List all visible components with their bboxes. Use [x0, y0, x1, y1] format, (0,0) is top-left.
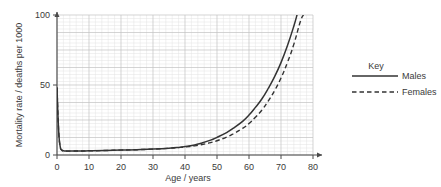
y-axis-title: Mortality rate / deaths per 1000: [14, 23, 24, 148]
legend-label-females: Females: [402, 87, 437, 97]
x-tick-label: 80: [308, 162, 318, 172]
y-tick-label: 50: [40, 80, 50, 90]
y-tick-label: 100: [35, 10, 50, 20]
chart-canvas: 01020304050607080 050100 Age / years Mor…: [0, 0, 441, 187]
chart-background: [0, 0, 441, 187]
x-tick-label: 70: [276, 162, 286, 172]
x-tick-label: 50: [212, 162, 222, 172]
x-tick-label: 20: [116, 162, 126, 172]
legend-title: Key: [368, 61, 384, 71]
x-tick-label: 60: [244, 162, 254, 172]
x-tick-label: 30: [148, 162, 158, 172]
y-tick-label: 0: [45, 150, 50, 160]
x-tick-label: 10: [84, 162, 94, 172]
legend-label-males: Males: [402, 71, 427, 81]
x-tick-label: 0: [54, 162, 59, 172]
x-axis-title: Age / years: [165, 173, 211, 183]
mortality-rate-chart-figure: 01020304050607080 050100 Age / years Mor…: [0, 0, 441, 187]
x-tick-label: 40: [180, 162, 190, 172]
